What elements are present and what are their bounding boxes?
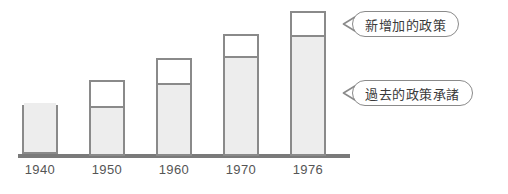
callout-pointer-icon [342, 85, 355, 101]
x-tick-label-1976: 1976 [278, 162, 338, 177]
bar-segment-past-1976 [292, 35, 324, 154]
callout-bubble-new-policy: 新增加的政策 [352, 11, 459, 37]
callout-pointer-icon [342, 16, 355, 32]
bar-1950 [89, 80, 125, 156]
callout-new-policy: 新增加的政策 [342, 11, 459, 37]
x-tick-label-1960: 1960 [144, 162, 204, 177]
callout-label-past-policy: 過去的政策承諸 [365, 84, 460, 103]
bar-1976 [290, 11, 326, 156]
bar-1970 [223, 34, 259, 156]
bar-segment-past-1950 [91, 106, 123, 154]
bar-segment-past-1970 [225, 56, 257, 154]
bar-1940 [22, 105, 58, 154]
callout-label-new-policy: 新增加的政策 [365, 15, 446, 34]
bar-1960 [156, 58, 192, 156]
bar-chart: 1940 1950 1960 1970 1976 新增加的政策 過去 [0, 0, 508, 194]
x-tick-label-1950: 1950 [77, 162, 137, 177]
bar-segment-past-1940 [24, 103, 56, 152]
x-tick-label-1970: 1970 [211, 162, 271, 177]
callout-bubble-past-policy: 過去的政策承諸 [352, 80, 473, 106]
plot-area: 1940 1950 1960 1970 1976 新增加的政策 過去 [0, 0, 508, 194]
x-tick-label-1940: 1940 [10, 162, 70, 177]
callout-past-policy: 過去的政策承諸 [342, 80, 473, 106]
bar-segment-past-1960 [158, 83, 190, 154]
